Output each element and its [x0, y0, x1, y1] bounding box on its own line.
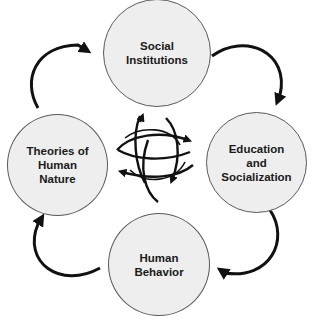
arrow-social-institutions-to-education [212, 46, 281, 100]
arrow-human-behavior-to-theories [34, 219, 100, 276]
node-label: Education and Socialization [221, 142, 291, 184]
node-social-institutions: Social Institutions [103, 0, 211, 107]
node-label: Social Institutions [126, 39, 188, 67]
cycle-diagram: Social Institutions Education and Social… [0, 0, 314, 325]
interlocking-cycle-arrows-icon [117, 116, 193, 202]
node-education-socialization: Education and Socialization [206, 112, 307, 213]
node-label: Theories of Human Nature [27, 144, 89, 186]
arrow-theories-to-social-institutions [31, 45, 86, 108]
node-human-behavior: Human Behavior [108, 213, 210, 316]
node-label: Human Behavior [134, 251, 183, 279]
node-theories-human-nature: Theories of Human Nature [7, 114, 108, 216]
arrow-education-to-human-behavior [222, 210, 278, 274]
